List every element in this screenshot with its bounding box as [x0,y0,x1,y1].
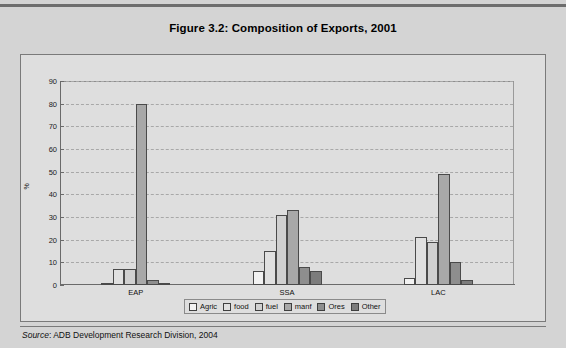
bottom-divider [20,326,546,327]
legend-item-agric: Agric [189,302,217,311]
bar-eap-manf [136,104,148,285]
bars-layer [60,81,514,285]
y-axis-tickmark [60,285,64,286]
legend-label: Other [362,302,381,311]
legend-swatch-icon [317,303,325,311]
bar-lac-agric [404,278,416,285]
bar-ssa-food [264,251,276,285]
y-axis-tick-label: 30 [35,213,57,222]
top-divider [0,4,566,7]
y-axis-tick-label: 0 [35,281,57,290]
legend-swatch-icon [223,303,231,311]
y-axis-tickmark [60,217,64,218]
bar-eap-food [113,269,125,285]
y-axis-tick-label: 90 [35,77,57,86]
y-axis-tickmark [60,149,64,150]
y-axis-tick-label: 40 [35,190,57,199]
legend-item-manf: manf [284,302,312,311]
figure-container: Figure 3.2: Composition of Exports, 2001… [0,0,566,348]
bar-eap-agric [101,283,113,285]
legend-swatch-icon [189,303,197,311]
bar-lac-manf [438,174,450,285]
page-title: Figure 3.2: Composition of Exports, 2001 [0,22,566,34]
legend-item-food: food [223,302,249,311]
y-axis-tickmark [60,262,64,263]
bar-lac-fuel [427,242,439,285]
y-axis-tickmark [60,240,64,241]
legend-item-ores: Ores [317,302,344,311]
x-axis-label-lac: LAC [431,288,446,297]
bar-lac-other [461,280,473,285]
source-note: Source: ADB Development Research Divisio… [22,330,218,340]
bar-ssa-manf [287,210,299,285]
y-axis-tick-labels: 0102030405060708090 [29,81,57,285]
bar-lac-ores [450,262,462,285]
x-axis-label-ssa: SSA [279,288,294,297]
legend-label: Agric [200,302,217,311]
x-axis-label-eap: EAP [128,288,143,297]
legend-item-other: Other [351,302,381,311]
bar-ssa-agric [253,271,265,285]
bar-ssa-fuel [276,215,288,285]
source-text: : ADB Development Research Division, 200… [49,330,218,340]
y-axis-tick-label: 50 [35,167,57,176]
y-axis-tickmark [60,81,64,82]
y-axis-tickmark [60,104,64,105]
legend-swatch-icon [351,303,359,311]
legend-label: manf [295,302,312,311]
bar-eap-fuel [124,269,136,285]
legend-label: Ores [328,302,344,311]
source-label: Source [22,330,49,340]
chart-panel: % 0102030405060708090 AgricfoodfuelmanfO… [20,54,546,322]
y-axis-tick-label: 20 [35,235,57,244]
y-axis-tickmark [60,172,64,173]
bar-eap-ores [147,280,159,285]
legend-swatch-icon [284,303,292,311]
y-axis-tick-label: 10 [35,258,57,267]
y-axis-tickmark [60,194,64,195]
legend-label: food [234,302,249,311]
bar-ssa-other [310,271,322,285]
legend-swatch-icon [255,303,263,311]
chart-legend: AgricfoodfuelmanfOresOther [184,299,386,314]
bar-ssa-ores [299,267,311,285]
legend-item-fuel: fuel [255,302,278,311]
legend-label: fuel [266,302,278,311]
y-axis-tick-label: 70 [35,122,57,131]
y-axis-tick-label: 80 [35,99,57,108]
bar-eap-other [159,283,171,285]
y-axis-tick-label: 60 [35,145,57,154]
bar-lac-food [415,237,427,285]
y-axis-tickmark [60,126,64,127]
